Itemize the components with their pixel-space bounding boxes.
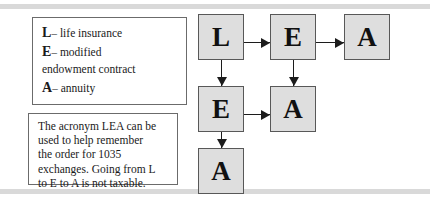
arrow-head-icon bbox=[261, 38, 270, 48]
flow-node-endowment-top: E bbox=[270, 14, 316, 60]
arrow-head-icon bbox=[261, 110, 270, 120]
arrow-down-e-to-a bbox=[288, 60, 299, 86]
arrow-right-e-to-a bbox=[316, 37, 344, 48]
flow-node-annuity-top: A bbox=[344, 14, 390, 60]
flow-node-endowment-middle: E bbox=[198, 86, 244, 132]
flow-node-annuity-bottom: A bbox=[198, 148, 244, 194]
arrow-down-l-to-e bbox=[216, 60, 227, 86]
arrow-head-icon bbox=[217, 77, 227, 86]
arrow-right-l-to-e bbox=[244, 37, 270, 48]
flow-node-life-insurance: L bbox=[198, 14, 244, 60]
arrow-right-e-to-a-middle bbox=[244, 109, 270, 120]
figure-1035-exchange-diagram: L– life insurance E– modified endowment … bbox=[0, 0, 430, 205]
flow-node-annuity-middle: A bbox=[270, 86, 316, 132]
arrow-head-icon bbox=[335, 38, 344, 48]
arrow-head-icon bbox=[289, 77, 299, 86]
arrow-down-e-to-a-bottom bbox=[216, 132, 227, 148]
arrow-head-icon bbox=[217, 139, 227, 148]
flow-chart: L E A E A A bbox=[0, 0, 430, 205]
